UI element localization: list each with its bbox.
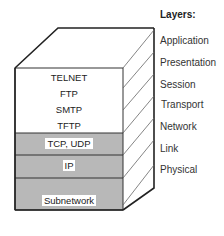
protocol-subnetwork: Subnetwork (15, 195, 123, 206)
protocol-telnet: TELNET (15, 72, 123, 83)
legend-title: Layers: (160, 9, 196, 20)
protocol-tftp: TFTP (15, 120, 123, 131)
protocol-smtp: SMTP (15, 104, 123, 115)
layer-presentation: Presentation (160, 57, 216, 68)
layer-link: Link (160, 143, 178, 154)
layer-application: Application (160, 35, 209, 46)
protocol-ftp: FTP (15, 88, 123, 99)
layer-physical: Physical (160, 164, 197, 175)
protocol-tcp-udp: TCP, UDP (15, 138, 123, 149)
layer-transport: Transport (161, 99, 203, 110)
side-layer-lines (123, 30, 154, 205)
protocol-ip: IP (15, 160, 123, 171)
layer-session: Session (160, 79, 196, 90)
layer-network: Network (160, 121, 197, 132)
